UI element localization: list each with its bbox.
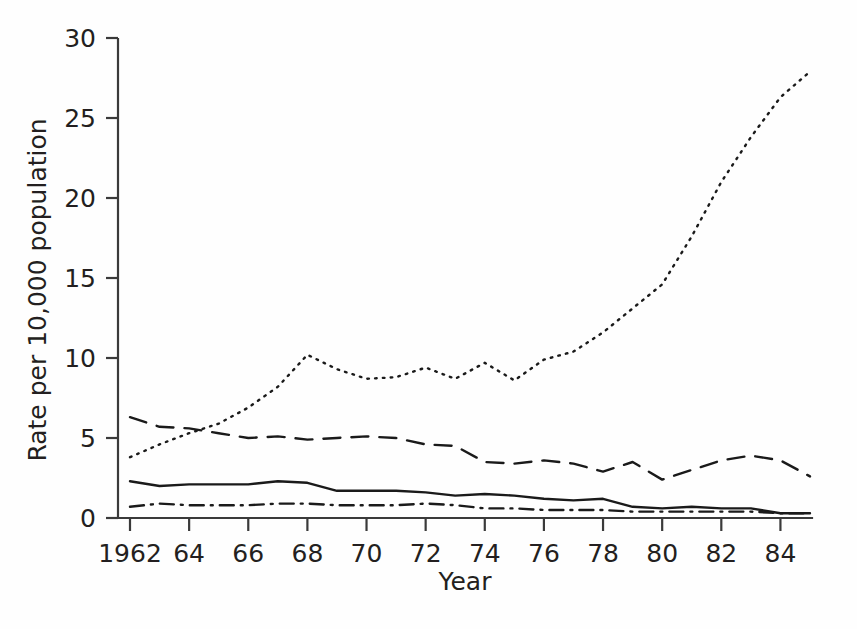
x-tick-label: 74 bbox=[469, 539, 501, 568]
y-tick-group bbox=[106, 38, 118, 518]
x-tick-label: 1962 bbox=[98, 539, 162, 568]
y-tick-label: 20 bbox=[64, 184, 96, 213]
x-tick-label: 64 bbox=[173, 539, 205, 568]
x-tick-label: 78 bbox=[587, 539, 619, 568]
x-axis-title: Year bbox=[438, 567, 493, 596]
series-group bbox=[130, 72, 810, 514]
y-tick-label: 25 bbox=[64, 104, 96, 133]
x-tick-label: 76 bbox=[528, 539, 560, 568]
x-tick-label: 68 bbox=[291, 539, 323, 568]
series-line-dotted-series bbox=[130, 72, 810, 458]
x-tick-label: 72 bbox=[410, 539, 442, 568]
chart-figure: 051015202530 19626466687072747678808284 … bbox=[0, 0, 857, 629]
y-tick-label: 10 bbox=[64, 344, 96, 373]
y-tick-label: 15 bbox=[64, 264, 96, 293]
y-tick-label-group: 051015202530 bbox=[64, 24, 96, 533]
series-line-dashed-series bbox=[130, 417, 810, 479]
y-tick-label: 0 bbox=[80, 504, 96, 533]
x-tick-label-group: 19626466687072747678808284 bbox=[98, 539, 796, 568]
x-tick-group bbox=[130, 518, 780, 531]
x-tick-label: 70 bbox=[351, 539, 383, 568]
x-tick-label: 82 bbox=[705, 539, 737, 568]
x-tick-label: 84 bbox=[765, 539, 797, 568]
x-tick-label: 80 bbox=[646, 539, 678, 568]
line-chart-svg: 051015202530 19626466687072747678808284 … bbox=[0, 0, 857, 629]
y-tick-label: 5 bbox=[80, 424, 96, 453]
x-tick-label: 66 bbox=[232, 539, 264, 568]
y-tick-label: 30 bbox=[64, 24, 96, 53]
y-axis-title: Rate per 10,000 population bbox=[23, 118, 52, 461]
series-line-solid-series bbox=[130, 481, 810, 513]
